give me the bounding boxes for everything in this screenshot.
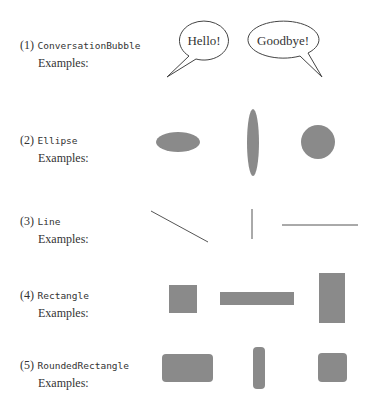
hello-bubble: Hello!: [167, 21, 228, 77]
hello-text: Hello!: [187, 33, 220, 48]
rounded-rectangle-square: [318, 353, 347, 382]
rectangle-square: [169, 285, 197, 313]
shapes-canvas: Hello! Goodbye!: [0, 0, 375, 408]
ellipse-circle: [301, 125, 335, 159]
ellipse-tall: [247, 109, 259, 176]
goodbye-text: Goodbye!: [257, 33, 309, 48]
rectangle-tall: [319, 273, 345, 323]
rounded-rectangle-tall: [253, 347, 265, 389]
ellipse-wide: [156, 132, 200, 152]
goodbye-bubble: Goodbye!: [248, 21, 322, 77]
rectangle-wide: [220, 292, 294, 305]
rounded-rectangle-wide: [162, 354, 213, 382]
line-diagonal: [151, 211, 208, 242]
